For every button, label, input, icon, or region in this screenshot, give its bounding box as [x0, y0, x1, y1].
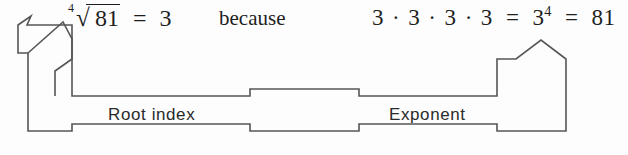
radical-equation: 4 √ 81 = 3 [67, 4, 172, 30]
radical-result: 3 [160, 5, 172, 31]
factor-2: 3 [408, 5, 420, 30]
root-index-exponent-diagram: 4 √ 81 = 3 because 3 · 3 · 3 · 3 = 34 = … [0, 0, 628, 155]
power-exponent: 4 [544, 3, 552, 19]
radicand-value: 81 [86, 4, 120, 30]
product-value: 81 [592, 5, 616, 30]
radical-sign-icon: √ [76, 5, 90, 30]
left-arrow-fold [28, 22, 72, 96]
power-base: 3 [532, 5, 544, 30]
multiply-dot-3: · [463, 5, 475, 30]
because-connective: because [219, 8, 285, 29]
factor-3: 3 [445, 5, 457, 30]
factor-1: 3 [372, 5, 384, 30]
ribbon-path [18, 16, 566, 131]
callout-label-root-index: Root index [108, 105, 195, 125]
product-equation: 3 · 3 · 3 · 3 = 34 = 81 [372, 6, 615, 29]
callout-label-exponent: Exponent [389, 105, 466, 125]
radical-equals-sign: = [133, 5, 147, 31]
radical-index: 4 [68, 2, 74, 14]
product-equals-sign-2: = [565, 5, 578, 30]
factor-4: 3 [481, 5, 493, 30]
multiply-dot-2: · [426, 5, 438, 30]
multiply-dot-1: · [390, 5, 402, 30]
product-equals-sign-1: = [506, 5, 519, 30]
radical-group: 4 √ 81 [67, 4, 120, 30]
